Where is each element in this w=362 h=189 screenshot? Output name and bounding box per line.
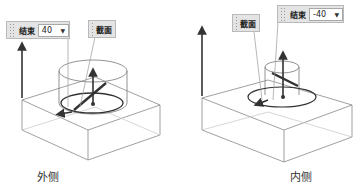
drag-grip-icon[interactable] [235, 16, 238, 30]
drag-grip-icon[interactable] [9, 23, 15, 37]
caret-down-icon[interactable]: ▼ [334, 11, 339, 18]
right-end-panel: 结束 -40 ▼ [277, 5, 344, 23]
left-end-panel: 结束 40 ▼ [6, 21, 70, 39]
left-section-panel[interactable]: 截面 [88, 20, 116, 38]
end-value-dropdown[interactable]: 40 ▼ [38, 24, 69, 37]
end-value: 40 [42, 26, 52, 35]
drag-grip-icon[interactable] [91, 22, 94, 36]
drag-grip-icon[interactable] [280, 7, 286, 21]
section-label: 截面 [240, 18, 256, 29]
right-block [202, 80, 352, 162]
end-label: 结束 [290, 9, 306, 20]
end-label: 结束 [19, 25, 35, 36]
end-value: -40 [313, 10, 326, 19]
right-section-panel[interactable]: 截面 [232, 14, 260, 32]
end-value-dropdown[interactable]: -40 ▼ [309, 8, 343, 21]
left-caption: 外侧 [37, 168, 59, 184]
section-label: 截面 [96, 24, 112, 35]
caret-down-icon[interactable]: ▼ [60, 27, 65, 34]
left-block [22, 77, 160, 160]
right-caption: 内侧 [290, 168, 312, 184]
